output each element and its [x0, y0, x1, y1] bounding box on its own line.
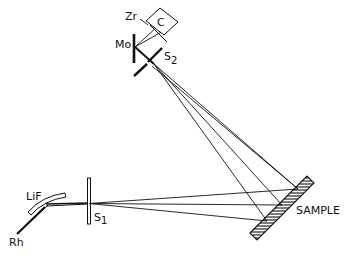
label-mo: Mo [115, 38, 131, 51]
lif-to-s1-beam [46, 203, 89, 206]
label-c: C [157, 16, 165, 29]
label-lif: LiF [26, 190, 42, 203]
label-sample: SAMPLE [296, 204, 340, 217]
label-zr: Zr [125, 10, 138, 23]
label-rh: Rh [9, 236, 24, 249]
label-s1: S1 [94, 211, 107, 226]
s2-to-mo-beam [135, 47, 154, 64]
spectrometer-diagram: Zr C Mo S2 LiF S1 Rh SAMPLE [0, 0, 346, 255]
slit-s2 [134, 48, 162, 76]
slit-s1 [88, 178, 91, 224]
label-s2: S2 [164, 50, 177, 66]
